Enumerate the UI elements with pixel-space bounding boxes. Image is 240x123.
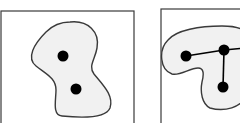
panel-right-node-2 — [219, 45, 230, 56]
panel-right — [161, 9, 240, 123]
panel-right-node-1 — [181, 51, 192, 62]
panel-right-region — [162, 26, 240, 109]
panel-left-node-2 — [71, 84, 82, 95]
panel-left — [1, 11, 134, 123]
diagram-canvas — [0, 0, 240, 123]
panel-left-region — [31, 22, 110, 117]
panel-left-node-1 — [58, 51, 69, 62]
panel-right-node-3 — [218, 82, 229, 93]
panel-right-edge-2 — [223, 50, 224, 87]
